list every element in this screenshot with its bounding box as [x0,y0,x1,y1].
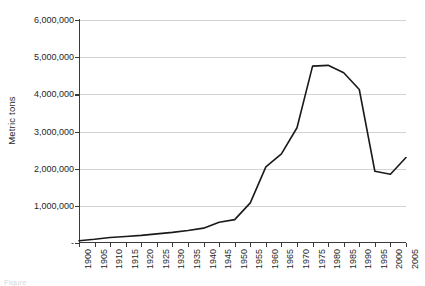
x-axis-tick-mark [406,243,407,247]
x-axis-tick-mark [95,243,96,247]
x-axis-tick-mark [188,243,189,247]
x-axis-tick-mark [266,243,267,247]
x-axis-tick-label: 1965 [285,249,295,269]
x-axis-tick-label: 1970 [301,249,311,269]
x-axis-tick-label: 1925 [161,249,171,269]
x-axis-tick-label: 1975 [317,249,327,269]
x-axis-tick-label: 1990 [363,249,373,269]
x-axis-tick-label: 1915 [130,249,140,269]
x-axis-tick-label: 1940 [208,249,218,269]
x-axis-tick-label: 2005 [410,249,420,269]
x-axis-tick-label: 1950 [239,249,249,269]
x-axis-tick-mark [390,243,391,247]
x-axis-tick-label-group: 1900190519101915192019251930193519401945… [79,249,406,281]
y-axis-tick-label: 4,000,000 [16,89,74,99]
x-axis-tick-mark [313,243,314,247]
x-axis-tick-mark [328,243,329,247]
x-axis-tick-label: 1995 [379,249,389,269]
x-axis-tick-label: 1930 [176,249,186,269]
x-axis-tick-mark [219,243,220,247]
x-axis-tick-label: 2000 [394,249,404,269]
x-axis-tick-label: 1910 [114,249,124,269]
y-axis-title-label: Metric tons [6,96,17,145]
x-axis-tick-mark [235,243,236,247]
y-axis-tick-label: 6,000,000 [16,15,74,25]
x-axis-tick-label: 1985 [348,249,358,269]
x-axis-tick-mark [281,243,282,247]
figure-caption: Figure [4,278,27,286]
x-axis-tick-label: 1960 [270,249,280,269]
x-axis-tick-mark [375,243,376,247]
x-axis-tick-mark [344,243,345,247]
plot-area [79,20,406,243]
y-axis-tick-label: 2,000,000 [16,164,74,174]
y-axis-tick-label-group: 6,000,0005,000,0004,000,0003,000,0002,00… [16,20,74,243]
chart-screenshot: Metric tons 6,000,0005,000,0004,000,0003… [0,0,425,286]
x-axis-tick-mark [126,243,127,247]
x-axis-tick-label: 1980 [332,249,342,269]
x-axis-tick-mark [250,243,251,247]
x-axis-tick-label: 1905 [99,249,109,269]
y-axis-tick-label: 3,000,000 [16,127,74,137]
data-series-line [79,20,406,243]
x-axis-tick-mark [110,243,111,247]
y-axis-tick-label: 5,000,000 [16,52,74,62]
x-axis-tick-mark [204,243,205,247]
x-axis-tick-mark [297,243,298,247]
x-axis-tick-mark [172,243,173,247]
x-axis-tick-mark [141,243,142,247]
series-polyline [79,65,406,240]
x-axis-tick-label: 1945 [223,249,233,269]
x-axis-tick-mark [157,243,158,247]
x-axis-tick-label: 1900 [83,249,93,269]
x-axis-tick-label: 1935 [192,249,202,269]
x-axis-tick-mark [359,243,360,247]
x-axis-tick-label: 1955 [254,249,264,269]
y-axis-tick-label: 1,000,000 [16,201,74,211]
y-axis-tick-label: - [16,238,74,248]
x-axis-tick-label: 1920 [145,249,155,269]
